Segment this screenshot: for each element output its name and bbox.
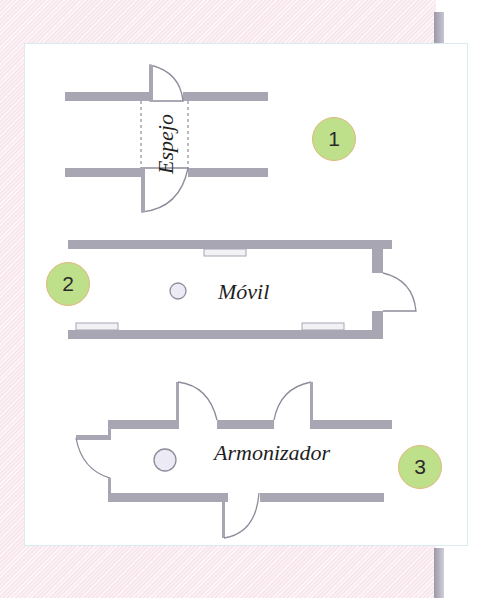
label-movil: Móvil — [218, 279, 269, 305]
wall-top-right — [183, 92, 268, 101]
wall-bottom-left — [65, 168, 145, 177]
wall-top — [68, 240, 392, 249]
badge-2: 2 — [46, 262, 90, 306]
badge-1: 1 — [312, 117, 356, 161]
object-circle — [170, 283, 186, 299]
wall-bottom-right — [188, 168, 268, 177]
label-armonizador: Armonizador — [214, 440, 330, 466]
badge-3: 3 — [398, 445, 442, 489]
wall-bottom — [68, 330, 383, 339]
object-circle — [154, 449, 176, 471]
wall-top-left — [65, 92, 153, 101]
label-espejo: Espejo — [153, 104, 179, 184]
